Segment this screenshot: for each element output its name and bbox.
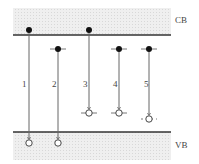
- vb-label: VB: [175, 140, 188, 150]
- transition-2: 2: [50, 46, 66, 146]
- hole-circle-icon: [146, 116, 152, 122]
- valence-band: [13, 132, 171, 160]
- hole-circle-icon: [116, 110, 122, 116]
- transition-label: 1: [22, 79, 27, 89]
- electron-dot-icon: [146, 46, 152, 52]
- electron-dot-icon: [55, 46, 61, 52]
- transition-label: 4: [113, 79, 118, 89]
- transition-4: 4: [111, 46, 127, 116]
- electron-dot-icon: [86, 27, 92, 33]
- transitions: 12345: [22, 27, 157, 146]
- hole-circle-icon: [86, 110, 92, 116]
- band-diagram: 12345 CB VB: [0, 0, 199, 164]
- electron-dot-icon: [116, 46, 122, 52]
- hole-circle-icon: [55, 140, 61, 146]
- cb-label: CB: [175, 15, 187, 25]
- electron-dot-icon: [26, 27, 32, 33]
- transition-5: 5: [141, 46, 157, 122]
- transition-3: 3: [81, 27, 97, 116]
- conduction-band: [13, 8, 171, 35]
- transition-label: 2: [52, 79, 57, 89]
- hole-circle-icon: [26, 140, 32, 146]
- transition-label: 3: [83, 79, 88, 89]
- transition-1: 1: [22, 27, 32, 146]
- transition-label: 5: [144, 79, 149, 89]
